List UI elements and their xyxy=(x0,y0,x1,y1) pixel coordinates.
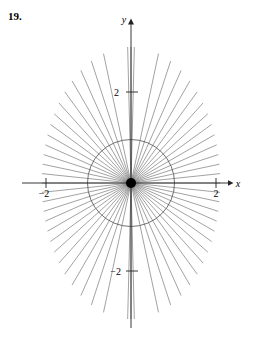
y-tick-label-positive-2: 2 xyxy=(114,87,119,98)
y-tick-label-negative-2: −2 xyxy=(110,266,121,277)
origin-dot xyxy=(126,178,136,188)
ray-line xyxy=(131,47,134,183)
ray-line xyxy=(131,70,181,183)
ray-line xyxy=(131,183,171,305)
ray-line xyxy=(59,183,131,263)
ray-line xyxy=(81,70,131,183)
ray-line xyxy=(131,61,171,183)
ray-line xyxy=(131,183,203,263)
ray-line xyxy=(128,47,131,183)
ray-line xyxy=(131,183,159,312)
ray-line xyxy=(128,183,131,319)
ray-line xyxy=(131,103,203,183)
polar-plot-figure: x y 2 −2 2 −2 xyxy=(0,0,254,341)
ray-line xyxy=(104,54,132,183)
ray-line xyxy=(59,103,131,183)
ray-line xyxy=(91,61,131,183)
ray-line xyxy=(131,54,159,183)
x-axis-label: x xyxy=(235,178,241,189)
y-axis-label: y xyxy=(121,14,127,25)
ray-line xyxy=(131,183,134,319)
ray-line xyxy=(72,183,131,285)
ray-line xyxy=(91,183,131,305)
ray-line xyxy=(131,81,190,183)
x-tick-label-negative-2: −2 xyxy=(39,188,50,199)
figure-page: 19. x y 2 −2 2 −2 xyxy=(0,0,254,341)
ray-line xyxy=(104,183,132,312)
x-tick-label-positive-2: 2 xyxy=(214,188,219,199)
ray-line xyxy=(131,183,190,285)
ray-line xyxy=(72,81,131,183)
ray-line xyxy=(81,183,131,296)
ray-line xyxy=(131,183,181,296)
